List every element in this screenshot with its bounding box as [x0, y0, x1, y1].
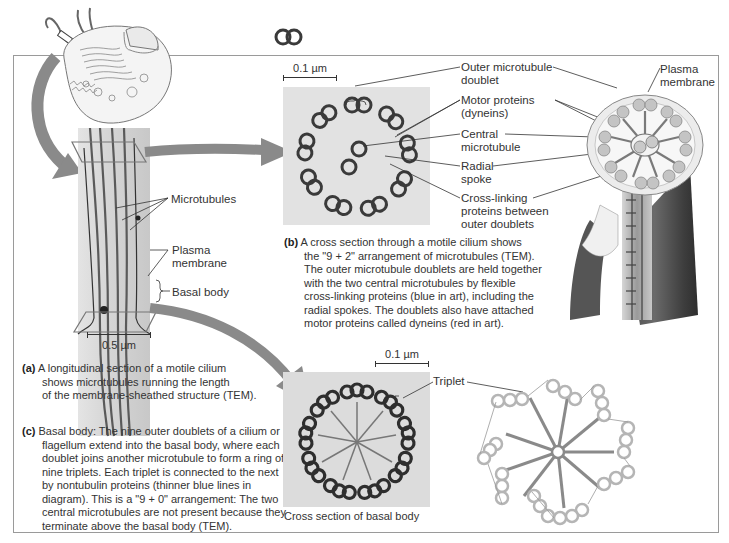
- cilium-3d-illustration: [570, 85, 720, 325]
- caption-a-text: (a) A longitudinal section of a motile c…: [22, 362, 282, 403]
- caption-b-text: (b) A cross section through a motile cil…: [284, 236, 554, 331]
- label-text: Central: [461, 128, 520, 141]
- label-text: spoke: [461, 173, 494, 186]
- caption-line: diagram). This is a "9 + 0" arrangement:…: [42, 493, 278, 505]
- label-text: (dyneins): [461, 107, 535, 120]
- caption-line: central microtubules are not present bec…: [42, 506, 286, 518]
- caption-line: the "9 + 2" arrangement of microtubules …: [304, 250, 535, 262]
- arrow-to-cross-section: [145, 140, 295, 170]
- basal-body-diagram-9plus0: [476, 370, 646, 530]
- caption-line: of the membrane-sheathed structure (TEM)…: [42, 389, 257, 401]
- caption-line: doublet joins another microtubule to for…: [42, 452, 284, 464]
- label-motor-proteins: Motor proteins (dyneins): [461, 94, 535, 120]
- label-text: proteins between: [461, 205, 549, 218]
- caption-b: (b) A cross section through a motile cil…: [284, 236, 554, 331]
- caption-line: shows microtubules running the length: [42, 376, 230, 388]
- caption-letter: (b): [284, 236, 298, 248]
- caption-c-text: (c) Basal body: The nine outer doublets …: [22, 425, 292, 533]
- caption-line: A cross section through a motile cilium …: [301, 236, 522, 248]
- label-text: membrane: [172, 257, 227, 270]
- scale-bar-label: 0.5 µm: [87, 339, 151, 351]
- scale-bar-c: 0.1 µm: [375, 348, 429, 367]
- section-plane-b: [70, 140, 150, 164]
- label-basal-body: Basal body: [172, 286, 229, 299]
- scale-bar-line: [375, 361, 429, 367]
- caption-letter: (c): [22, 425, 35, 437]
- label-central-microtubule: Central microtubule: [461, 128, 520, 154]
- caption-line: Basal body: The nine outer doublets of a…: [39, 425, 280, 437]
- label-text: Cross-linking: [461, 192, 549, 205]
- label-cross-section-basal-body: Cross section of basal body: [284, 510, 419, 523]
- label-text: Motor proteins: [461, 94, 535, 107]
- label-text: Plasma: [172, 244, 227, 257]
- scale-bar-a: 0.5 µm: [87, 332, 151, 351]
- caption-line: flagellum extend into the basal body, wh…: [42, 439, 280, 451]
- label-cross-linking-proteins: Cross-linking proteins between outer dou…: [461, 192, 549, 231]
- caption-line: motor proteins called dyneins (red in ar…: [304, 317, 504, 329]
- label-text: Radial: [461, 160, 494, 173]
- caption-line: with the two central microtubules by fle…: [304, 277, 516, 289]
- caption-line: cross-linking proteins (blue in art), in…: [304, 290, 534, 302]
- caption-line: A longitudinal section of a motile ciliu…: [38, 362, 226, 374]
- caption-line: The outer microtubule doublets are held …: [304, 263, 542, 275]
- caption-letter: (a): [22, 362, 35, 374]
- label-plasma-membrane-a: Plasma membrane: [172, 244, 227, 270]
- panel-a-leaders: [100, 190, 170, 310]
- label-text: microtubule: [461, 141, 520, 154]
- label-text: doublet: [461, 74, 552, 87]
- caption-line: nine triplets. Each triplet is connected…: [42, 466, 279, 478]
- caption-line: terminate above the basal body (TEM).: [42, 520, 232, 532]
- caption-c: (c) Basal body: The nine outer doublets …: [22, 425, 292, 533]
- section-plane-c: [70, 310, 160, 334]
- scale-bar-label: 0.1 µm: [375, 348, 429, 360]
- label-outer-microtubule-doublet: Outer microtubule doublet: [461, 61, 552, 87]
- caption-a: (a) A longitudinal section of a motile c…: [22, 362, 282, 403]
- scale-bar-line: [87, 332, 151, 338]
- label-text: outer doublets: [461, 218, 549, 231]
- label-text: Plasma: [660, 63, 715, 76]
- scale-bar-line: [283, 75, 337, 81]
- label-text: Outer microtubule: [461, 61, 552, 74]
- scale-bar-b: 0.1 µm: [283, 62, 337, 81]
- caption-line: radial spokes. The doublets also have at…: [304, 304, 534, 316]
- caption-line: by nontubulin proteins (thinner blue lin…: [42, 479, 251, 491]
- scale-bar-label: 0.1 µm: [283, 62, 337, 74]
- label-radial-spoke: Radial spoke: [461, 160, 494, 186]
- label-microtubules: Microtubules: [171, 193, 236, 206]
